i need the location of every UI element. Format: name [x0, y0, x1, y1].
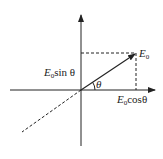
sin-component-label: E0sin θ — [43, 66, 75, 80]
angle-arc — [93, 82, 95, 90]
cos-component-label: E0cosθ — [116, 93, 147, 107]
vector-e0 — [81, 54, 135, 90]
vector-diagram: E0 E0sin θ E0cosθ θ — [0, 0, 163, 159]
dashed-extension-line — [22, 90, 81, 132]
vector-e0-label: E0 — [138, 47, 150, 61]
angle-theta-label: θ — [96, 78, 102, 90]
